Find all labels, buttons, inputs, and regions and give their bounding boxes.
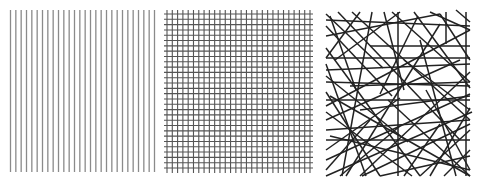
figure-canvas	[0, 0, 483, 186]
line-pattern-figure	[0, 0, 483, 186]
